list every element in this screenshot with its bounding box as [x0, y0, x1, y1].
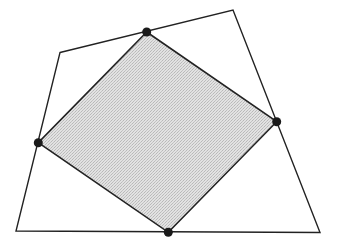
vertex-point-left	[34, 138, 43, 147]
inner-shaded-quadrilateral	[38, 32, 276, 232]
vertex-point-bottom	[164, 228, 173, 237]
vertex-point-right	[272, 117, 281, 126]
vertex-point-top	[142, 28, 151, 37]
diagram-canvas	[0, 0, 347, 246]
